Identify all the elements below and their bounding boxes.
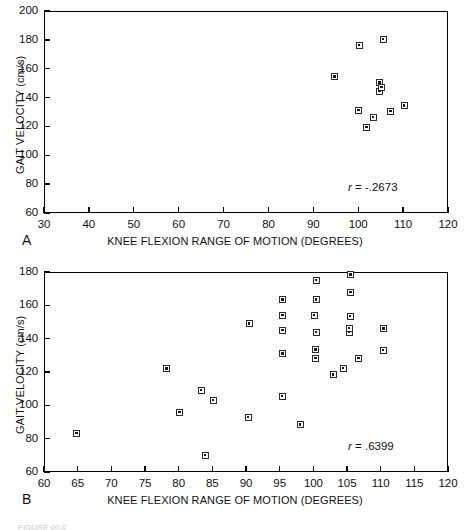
data-point-marker bbox=[340, 365, 347, 372]
x-tick-label: 120 bbox=[428, 477, 468, 489]
data-point-marker bbox=[347, 289, 354, 296]
data-point-marker bbox=[346, 325, 353, 332]
data-point-marker bbox=[176, 409, 183, 416]
x-tick-label: 40 bbox=[69, 218, 109, 230]
x-tick-mark bbox=[223, 207, 224, 213]
y-tick-label: 60 bbox=[4, 465, 38, 477]
x-tick-mark bbox=[77, 466, 78, 472]
x-tick-mark bbox=[313, 466, 314, 472]
data-point-marker bbox=[312, 355, 319, 362]
x-tick-mark bbox=[414, 466, 415, 472]
data-point-marker bbox=[297, 421, 304, 428]
x-tick-label: 30 bbox=[24, 218, 64, 230]
data-point-marker bbox=[331, 73, 338, 80]
x-tick-mark bbox=[447, 207, 448, 213]
data-point-marker bbox=[370, 114, 377, 121]
data-point-marker bbox=[355, 355, 362, 362]
y-tick-mark bbox=[44, 183, 50, 184]
y-tick-mark bbox=[44, 155, 50, 156]
panel-b: 6080100120140160180606570758085909510010… bbox=[0, 258, 470, 530]
data-point-marker bbox=[356, 42, 363, 49]
data-point-marker bbox=[279, 312, 286, 319]
data-point-marker bbox=[163, 365, 170, 372]
correlation-annotation-a: r = -.2673 bbox=[348, 181, 398, 193]
panel-a: 6080100120140160180200304050607080901001… bbox=[0, 0, 470, 258]
x-tick-mark bbox=[178, 207, 179, 213]
x-tick-mark bbox=[313, 207, 314, 213]
panel-letter-b: B bbox=[22, 491, 31, 507]
x-tick-mark bbox=[144, 466, 145, 472]
x-axis-title-b: KNEE FLEXION RANGE OF MOTION (DEGREES) bbox=[0, 494, 470, 506]
x-tick-mark bbox=[43, 207, 44, 213]
x-tick-label: 50 bbox=[114, 218, 154, 230]
data-point-marker bbox=[312, 346, 319, 353]
data-point-marker bbox=[313, 277, 320, 284]
y-tick-mark bbox=[44, 471, 50, 472]
x-tick-mark bbox=[178, 466, 179, 472]
y-tick-mark bbox=[44, 405, 50, 406]
data-point-marker bbox=[330, 371, 337, 378]
y-tick-label: 200 bbox=[4, 4, 38, 16]
data-point-marker bbox=[198, 387, 205, 394]
y-tick-mark bbox=[44, 39, 50, 40]
x-tick-label: 100 bbox=[338, 218, 378, 230]
data-point-marker bbox=[401, 102, 408, 109]
x-tick-mark bbox=[88, 207, 89, 213]
x-tick-mark bbox=[111, 466, 112, 472]
y-tick-mark bbox=[44, 212, 50, 213]
panel-letter-a: A bbox=[22, 232, 31, 248]
data-point-marker bbox=[347, 313, 354, 320]
x-tick-mark bbox=[43, 466, 44, 472]
y-tick-mark bbox=[44, 305, 50, 306]
data-point-marker bbox=[378, 84, 385, 91]
y-tick-label: 80 bbox=[4, 177, 38, 189]
y-tick-label: 60 bbox=[4, 206, 38, 218]
data-point-marker bbox=[279, 296, 286, 303]
data-point-marker bbox=[210, 397, 217, 404]
y-axis-title-a: GAIT VELOCITY (cm/s) bbox=[14, 56, 26, 174]
x-tick-mark bbox=[380, 466, 381, 472]
x-tick-mark bbox=[447, 466, 448, 472]
y-tick-label: 180 bbox=[4, 265, 38, 277]
x-tick-mark bbox=[268, 207, 269, 213]
x-tick-label: 90 bbox=[293, 218, 333, 230]
data-point-marker bbox=[279, 327, 286, 334]
x-tick-label: 110 bbox=[383, 218, 423, 230]
data-point-marker bbox=[380, 325, 387, 332]
data-point-marker bbox=[279, 393, 286, 400]
x-tick-mark bbox=[212, 466, 213, 472]
y-tick-mark bbox=[44, 371, 50, 372]
data-point-marker bbox=[380, 347, 387, 354]
r-symbol: r bbox=[348, 440, 352, 452]
correlation-annotation-b: r = .6399 bbox=[348, 440, 394, 452]
data-point-marker bbox=[313, 329, 320, 336]
y-tick-label: 160 bbox=[4, 298, 38, 310]
x-tick-mark bbox=[346, 466, 347, 472]
x-tick-mark bbox=[358, 207, 359, 213]
data-point-marker bbox=[347, 271, 354, 278]
y-tick-mark bbox=[44, 68, 50, 69]
data-point-marker bbox=[387, 108, 394, 115]
x-tick-mark bbox=[245, 466, 246, 472]
x-tick-mark bbox=[133, 207, 134, 213]
data-point-marker bbox=[363, 124, 370, 131]
r-symbol: r bbox=[348, 181, 352, 193]
data-point-marker bbox=[202, 452, 209, 459]
y-tick-mark bbox=[44, 10, 50, 11]
x-axis-title-a: KNEE FLEXION RANGE OF MOTION (DEGREES) bbox=[0, 235, 470, 247]
x-tick-label: 60 bbox=[159, 218, 199, 230]
data-point-marker bbox=[311, 312, 318, 319]
y-tick-label: 180 bbox=[4, 33, 38, 45]
data-point-marker bbox=[355, 107, 362, 114]
data-point-marker bbox=[380, 36, 387, 43]
y-tick-mark bbox=[44, 97, 50, 98]
data-point-marker bbox=[73, 430, 80, 437]
y-tick-mark bbox=[44, 271, 50, 272]
data-point-marker bbox=[313, 296, 320, 303]
data-point-marker bbox=[246, 320, 253, 327]
x-tick-label: 70 bbox=[204, 218, 244, 230]
y-tick-mark bbox=[44, 438, 50, 439]
x-tick-mark bbox=[402, 207, 403, 213]
data-point-marker bbox=[279, 350, 286, 357]
y-tick-mark bbox=[44, 126, 50, 127]
